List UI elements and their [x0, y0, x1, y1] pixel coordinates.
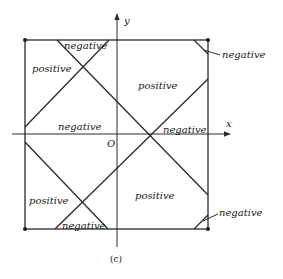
label-corner-top-right: negative — [222, 49, 266, 60]
diagonal-line-a — [25, 40, 109, 127]
y-axis-label: y — [123, 15, 130, 26]
label-top-triangle: negative — [64, 40, 108, 51]
corner-line-top-right — [194, 40, 208, 54]
corner-dot-top-right — [206, 38, 210, 42]
label-bottom-triangle: negative — [62, 220, 106, 231]
label-top-left: positive — [32, 63, 72, 74]
label-top-right: positive — [138, 80, 178, 91]
corner-dot-top-left — [23, 38, 27, 42]
figure-caption: (c) — [110, 254, 122, 264]
corner-dot-bottom-left — [23, 227, 27, 231]
diagonal-line-c — [55, 79, 208, 229]
label-middle-left: negative — [58, 121, 102, 132]
x-axis-label: x — [226, 118, 232, 129]
diagonal-line-d — [25, 142, 108, 229]
label-corner-bottom-right: negative — [219, 207, 263, 218]
label-middle-right: negative — [163, 124, 207, 135]
diagonal-line-b — [57, 40, 208, 195]
sign-region-diagram: y x O negative positive positive negativ… — [0, 0, 283, 279]
origin-label: O — [107, 138, 115, 149]
label-bottom-left: positive — [29, 195, 69, 206]
corner-line-bottom-right — [194, 215, 208, 229]
corner-dot-bottom-right — [206, 227, 210, 231]
label-bottom-right: positive — [135, 190, 175, 201]
